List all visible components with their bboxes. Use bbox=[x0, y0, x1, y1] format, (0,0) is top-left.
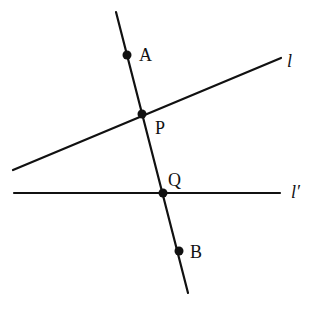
diagram-svg: A P Q B l l′ bbox=[0, 0, 324, 309]
point-q bbox=[159, 189, 168, 198]
label-a: A bbox=[139, 45, 152, 65]
point-b bbox=[175, 247, 184, 256]
label-line-l: l bbox=[287, 51, 292, 71]
point-p bbox=[138, 110, 147, 119]
geometry-diagram: A P Q B l l′ bbox=[0, 0, 324, 309]
line-l bbox=[13, 58, 281, 170]
label-b: B bbox=[190, 242, 202, 262]
label-line-l-prime: l′ bbox=[291, 182, 301, 202]
label-p: P bbox=[155, 118, 165, 138]
label-q: Q bbox=[168, 170, 181, 190]
point-a bbox=[123, 51, 132, 60]
